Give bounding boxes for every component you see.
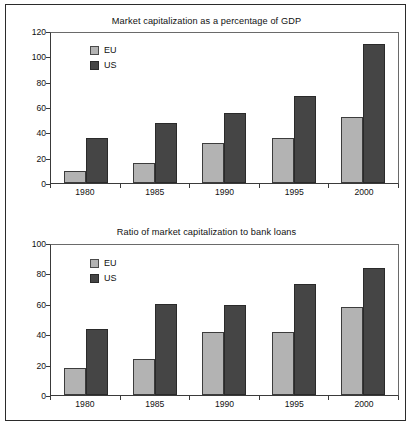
bar-group — [272, 33, 316, 183]
legend-swatch-eu-icon — [90, 46, 99, 55]
bar-us-1990 — [224, 113, 246, 183]
legend-label-us: US — [104, 61, 117, 70]
y-tick-label: 100 — [32, 239, 46, 249]
x-tick-label: 2000 — [329, 399, 399, 409]
figure-outer-frame: Market capitalization as a percentage of… — [5, 4, 406, 421]
legend-swatch-us-icon — [90, 61, 99, 70]
y-tick-label: 20 — [36, 361, 46, 371]
legend-label-us: US — [104, 274, 117, 283]
legend-item-us: US — [90, 61, 117, 70]
bar-eu-1995 — [272, 332, 294, 395]
bar-us-2000 — [363, 44, 385, 183]
x-tick-label: 1990 — [190, 187, 260, 197]
bar-eu-1985 — [133, 163, 155, 183]
y-tick-label: 0 — [41, 391, 46, 401]
y-axis: 020406080100 — [20, 244, 46, 396]
bar-us-1980 — [86, 138, 108, 183]
x-tick-label: 1995 — [259, 399, 329, 409]
bar-us-1990 — [224, 305, 246, 395]
x-tick-label: 1985 — [120, 399, 190, 409]
legend-item-eu: EU — [90, 259, 117, 268]
y-tick-label: 120 — [32, 27, 46, 37]
legend-item-eu: EU — [90, 46, 117, 55]
figure-page: Market capitalization as a percentage of… — [0, 0, 411, 425]
x-tick-label: 1990 — [190, 399, 260, 409]
bar-us-1980 — [86, 329, 108, 395]
legend: EU US — [90, 46, 117, 70]
x-tick-label: 1995 — [259, 187, 329, 197]
bar-eu-2000 — [341, 117, 363, 183]
legend-swatch-us-icon — [90, 274, 99, 283]
y-tick-label: 100 — [32, 52, 46, 62]
bar-eu-1985 — [133, 359, 155, 395]
legend: EU US — [90, 259, 117, 283]
bar-eu-1990 — [202, 332, 224, 395]
y-tick-label: 40 — [36, 128, 46, 138]
bar-group — [133, 245, 177, 395]
bar-eu-1995 — [272, 138, 294, 183]
x-axis: 19801985199019952000 — [50, 399, 399, 409]
y-tick-label: 60 — [36, 300, 46, 310]
bar-group — [202, 245, 246, 395]
y-tick-label: 0 — [41, 179, 46, 189]
y-tick-label: 20 — [36, 154, 46, 164]
x-tick-label: 2000 — [329, 187, 399, 197]
bar-eu-1980 — [64, 171, 86, 184]
y-axis: 020406080100120 — [20, 32, 46, 184]
bar-group — [341, 245, 385, 395]
bar-us-2000 — [363, 268, 385, 396]
bar-us-1995 — [294, 96, 316, 184]
x-axis: 19801985199019952000 — [50, 187, 399, 197]
bar-us-1995 — [294, 284, 316, 395]
legend-label-eu: EU — [104, 46, 117, 55]
bar-us-1985 — [155, 123, 177, 183]
chart-ratio-mktcap-bank-loans: Ratio of market capitalization to bank l… — [6, 223, 407, 419]
y-tick-label: 60 — [36, 103, 46, 113]
chart-market-cap-pct-gdp: Market capitalization as a percentage of… — [6, 8, 407, 211]
x-tick-label: 1980 — [50, 187, 120, 197]
y-tick-label: 80 — [36, 78, 46, 88]
legend-label-eu: EU — [104, 259, 117, 268]
chart-title: Market capitalization as a percentage of… — [6, 16, 407, 26]
x-tick-label: 1985 — [120, 187, 190, 197]
bar-eu-2000 — [341, 307, 363, 396]
bar-group — [272, 245, 316, 395]
y-tick-label: 40 — [36, 330, 46, 340]
bar-eu-1980 — [64, 368, 86, 395]
bar-us-1985 — [155, 304, 177, 396]
x-tick-label: 1980 — [50, 399, 120, 409]
bar-group — [341, 33, 385, 183]
bar-eu-1990 — [202, 143, 224, 183]
y-tick-label: 80 — [36, 269, 46, 279]
bar-group — [133, 33, 177, 183]
legend-swatch-eu-icon — [90, 259, 99, 268]
legend-item-us: US — [90, 274, 117, 283]
chart-title: Ratio of market capitalization to bank l… — [6, 227, 407, 237]
bar-group — [202, 33, 246, 183]
